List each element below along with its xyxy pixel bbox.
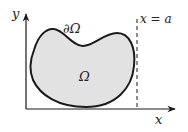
line-label: x = a (140, 12, 172, 26)
region-omega (30, 29, 134, 107)
y-axis-label: y (11, 6, 20, 21)
x-axis-label: x (155, 112, 163, 127)
region-label: Ω (78, 69, 90, 84)
diagram-canvas: y x ∂Ω Ω x = a (0, 0, 188, 132)
boundary-label: ∂Ω (63, 21, 81, 36)
